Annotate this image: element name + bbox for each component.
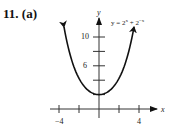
equation-annotation: y = 2x + 2−x: [111, 18, 145, 27]
x-tick-label-4: 4: [137, 117, 141, 126]
function-graph: x y −4 4 6 10 y = 2x + 2−x: [0, 0, 172, 140]
x-tick-label-neg4: −4: [55, 117, 64, 126]
y-tick-label-6: 6: [83, 61, 87, 70]
x-axis-label: x: [160, 105, 165, 114]
y-axis-label: y: [96, 8, 101, 17]
y-tick-label-10: 10: [81, 32, 89, 41]
